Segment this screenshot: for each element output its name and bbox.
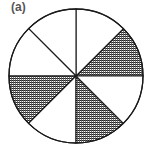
sectors-group — [9, 9, 143, 143]
fraction-circle-diagram — [0, 0, 151, 150]
